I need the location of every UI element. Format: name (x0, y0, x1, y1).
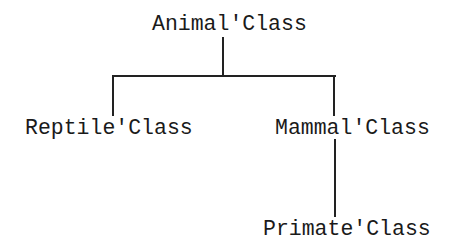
connector-to-primate (334, 139, 336, 217)
node-mammal-class: Mammal'Class (275, 117, 430, 139)
connector-branch-bar (112, 75, 336, 77)
node-animal-class: Animal'Class (152, 13, 307, 35)
node-reptile-class: Reptile'Class (25, 117, 193, 139)
connector-root-stem (222, 37, 224, 77)
connector-to-mammal (333, 75, 335, 116)
connector-to-reptile (112, 75, 114, 116)
node-primate-class: Primate'Class (263, 218, 431, 240)
